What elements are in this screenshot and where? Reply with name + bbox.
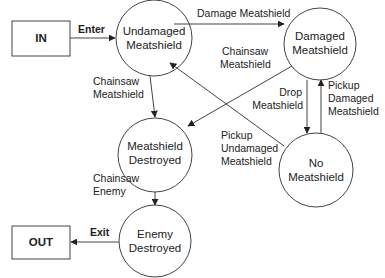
transition-label: Exit [90, 226, 110, 238]
terminal-in-label: IN [35, 32, 47, 44]
transition-label-line1: Drop [279, 86, 302, 98]
terminal-out-label: OUT [29, 236, 53, 248]
state-label-line1: Enemy [137, 228, 173, 240]
state-label-line1: Meatshield [127, 140, 183, 152]
state-label-line1: Damaged [295, 30, 345, 42]
state-undamaged-meatshield: Undamaged Meatshield [116, 0, 192, 76]
state-diagram: IN OUT Undamaged Meatshield Damaged Meat… [0, 0, 385, 278]
state-label-line1: No [309, 157, 324, 169]
transition-label-line1: Pickup [328, 79, 360, 91]
state-label-line2: Destroyed [129, 242, 181, 254]
state-label-line2: Meatshield [288, 171, 344, 183]
state-no-meatshield: No Meatshield [279, 133, 353, 207]
transition-damage-meatshield: Damage Meatshield [174, 7, 291, 24]
terminal-out: OUT [12, 226, 70, 259]
transition-drop-meatshield: Drop Meatshield [252, 80, 307, 133]
transition-label: Damage Meatshield [197, 7, 291, 19]
state-damaged-meatshield: Damaged Meatshield [284, 8, 356, 80]
transition-label-line2: Meatshield [93, 88, 144, 100]
state-enemy-destroyed: Enemy Destroyed [119, 205, 191, 277]
transition-exit: Exit [71, 226, 119, 242]
transition-enter: Enter [70, 23, 115, 38]
transition-label-line1: Chainsaw [222, 45, 269, 57]
transition-label-line2: Meatshield [252, 99, 303, 111]
transition-label-line2: Damaged [328, 92, 374, 104]
transition-label-line2: Enemy [93, 185, 126, 197]
state-label-line1: Undamaged [123, 25, 186, 37]
transition-label-line1: Pickup [221, 129, 253, 141]
state-label-line2: Meatshield [126, 39, 182, 51]
transition-label: Enter [78, 23, 105, 35]
state-label-line2: Meatshield [292, 44, 348, 56]
transition-label-line3: Meatshield [221, 155, 272, 167]
transition-label-line1: Chainsaw [93, 75, 140, 87]
transition-chainsaw-undamaged: Chainsaw Meatshield [93, 75, 155, 117]
transition-label-line2: Meatshield [220, 58, 271, 70]
transition-label-line2: Undamaged [221, 142, 278, 154]
state-label-line2: Destroyed [129, 154, 181, 166]
transition-label-line1: Chainsaw [93, 172, 140, 184]
terminal-in: IN [12, 21, 70, 56]
transition-pickup-damaged: Pickup Damaged Meatshield [321, 79, 379, 133]
transition-label-line3: Meatshield [328, 105, 379, 117]
